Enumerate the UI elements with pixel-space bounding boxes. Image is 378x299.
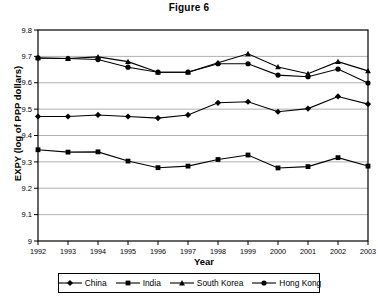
marker-square — [276, 166, 281, 171]
legend-marker-diamond-icon — [57, 278, 83, 288]
series-line — [38, 96, 368, 118]
marker-circle — [95, 57, 100, 62]
y-tick-label: 9.3 — [21, 158, 32, 167]
x-tick-label: 1994 — [90, 247, 106, 256]
series-south-korea — [35, 51, 371, 76]
y-tick-label: 9.5 — [21, 105, 32, 114]
x-axis-title: Year — [38, 256, 370, 267]
marker-diamond — [305, 105, 311, 111]
marker-diamond — [65, 113, 71, 119]
marker-diamond — [67, 280, 73, 286]
marker-diamond — [125, 113, 131, 119]
legend-item-china: China — [53, 278, 111, 288]
x-tick-label: 2000 — [270, 247, 286, 256]
y-tick-label: 9.2 — [21, 184, 32, 193]
marker-circle — [262, 280, 267, 285]
figure-container: Figure 6 EXPY (log of PPP dollars) 99.19… — [0, 0, 378, 299]
x-tick-label: 2001 — [300, 247, 316, 256]
legend-item-india: India — [111, 278, 165, 288]
marker-diamond — [245, 99, 251, 105]
legend-label: China — [85, 278, 107, 288]
legend-label: India — [143, 278, 161, 288]
legend-marker-circle-icon — [251, 278, 277, 288]
marker-square — [306, 164, 311, 169]
x-tick-label: 1999 — [240, 247, 256, 256]
marker-circle — [305, 74, 310, 79]
y-tick-label: 9.1 — [21, 210, 32, 219]
series-hong-kong — [35, 55, 370, 85]
series-india — [36, 147, 371, 170]
marker-square — [186, 164, 191, 169]
series-line — [38, 150, 368, 168]
marker-circle — [275, 73, 280, 78]
marker-triangle — [335, 59, 341, 64]
x-tick-label: 1992 — [30, 247, 46, 256]
x-tick-label: 2003 — [360, 247, 376, 256]
x-tick-label: 1998 — [210, 247, 226, 256]
marker-circle — [35, 55, 40, 60]
marker-square — [125, 281, 130, 286]
marker-square — [246, 153, 251, 158]
marker-diamond — [95, 112, 101, 118]
legend-label: South Korea — [197, 278, 244, 288]
marker-square — [336, 155, 341, 160]
y-tick-label: 9.4 — [21, 131, 32, 140]
marker-diamond — [35, 113, 41, 119]
marker-circle — [245, 61, 250, 66]
marker-diamond — [215, 100, 221, 106]
marker-circle — [365, 80, 370, 85]
x-tick-label: 2002 — [330, 247, 346, 256]
chart-legend: ChinaIndiaSouth KoreaHong Kong — [58, 273, 320, 293]
marker-square — [126, 159, 131, 164]
legend-label: Hong Kong — [279, 278, 321, 288]
marker-diamond — [365, 101, 371, 107]
marker-diamond — [335, 93, 341, 99]
marker-square — [96, 149, 101, 154]
legend-item-south-korea: South Korea — [165, 278, 248, 288]
marker-square — [36, 147, 41, 152]
y-tick-label: 9.8 — [21, 26, 32, 35]
marker-square — [366, 164, 371, 169]
x-tick-label: 1996 — [150, 247, 166, 256]
marker-square — [66, 150, 71, 155]
legend-item-hong-kong: Hong Kong — [247, 278, 325, 288]
line-chart-plot: 99.19.29.39.49.59.69.79.8199219931994199… — [0, 0, 378, 299]
x-axis: 1992199319941995199619971998199920002001… — [30, 241, 376, 256]
marker-circle — [335, 66, 340, 71]
marker-circle — [65, 56, 70, 61]
y-tick-label: 9.7 — [21, 52, 32, 61]
y-tick-label: 9 — [28, 237, 32, 246]
marker-circle — [215, 61, 220, 66]
y-tick-label: 9.6 — [21, 78, 32, 87]
series-line — [38, 58, 368, 83]
x-tick-label: 1997 — [180, 247, 196, 256]
x-tick-label: 1993 — [60, 247, 76, 256]
marker-circle — [125, 65, 130, 70]
marker-diamond — [155, 115, 161, 121]
series-china — [35, 93, 371, 121]
legend-marker-triangle-icon — [169, 278, 195, 288]
legend-marker-square-icon — [115, 278, 141, 288]
marker-circle — [155, 70, 160, 75]
x-tick-label: 1995 — [120, 247, 136, 256]
marker-circle — [185, 70, 190, 75]
marker-diamond — [185, 112, 191, 118]
marker-triangle — [245, 51, 251, 56]
marker-square — [216, 157, 221, 162]
marker-square — [156, 165, 161, 170]
